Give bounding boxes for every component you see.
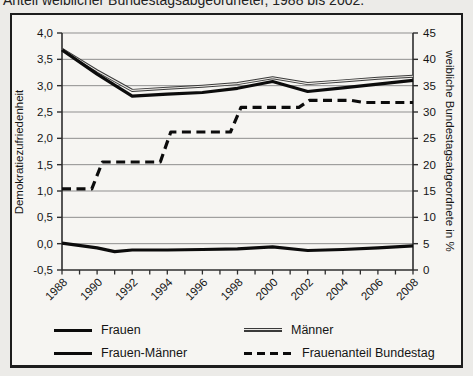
x-axis-tick-label: 1994 [148,276,175,303]
right-axis-tick-label: 30 [423,106,436,118]
right-axis-title: weibliche Bundestagsabgeordnete in % [444,49,456,251]
x-axis-tick-label: 2008 [394,276,421,303]
left-axis-tick-label: 1,0 [37,185,53,197]
left-axis-tick-label: 4,0 [37,27,53,39]
left-axis-tick-label: 3,5 [37,53,53,65]
legend-item-frauen: Frauen [54,323,244,337]
series-frauenanteil-line [62,100,413,188]
legend-item-frauenanteil: Frauenanteil Bundestag [244,346,447,360]
right-axis-tick-label: 5 [423,238,429,250]
right-axis-tick-label: 40 [423,53,436,65]
legend-label: Männer [291,323,333,337]
line-chart: 4,0453,5403,0352,5302,0251,5201,0150,510… [12,15,461,311]
right-axis-tick-label: 25 [423,132,436,144]
right-axis-tick-label: 20 [423,159,436,171]
series-frauen_maenner-line [62,243,413,252]
left-axis-tick-label: 0,0 [37,238,53,250]
right-axis-tick-label: 45 [423,27,436,39]
x-axis-tick-label: 2002 [289,276,316,303]
x-axis-tick-label: 1996 [183,276,210,303]
right-axis-tick-label: 35 [423,80,436,92]
right-axis-tick-label: 0 [423,264,429,276]
x-axis-tick-label: 1990 [78,276,105,303]
x-axis-tick-label: 2006 [359,276,386,303]
x-axis-tick-label: 1998 [218,276,245,303]
x-axis-tick-label: 1992 [113,276,140,303]
left-axis-tick-label: 1,5 [37,159,53,171]
series-frauen-line [62,50,413,96]
chart-title: Anteil weiblicher Bundestagsabgeordneter… [3,0,364,8]
right-axis-tick-label: 15 [423,185,436,197]
x-axis-tick-label: 2000 [253,276,280,303]
legend-label: Frauen-Männer [101,346,187,360]
x-axis-tick-label: 2004 [324,276,351,303]
left-axis-title: Demokratiezufriedenheit [13,89,25,214]
x-axis-tick-label: 1988 [43,276,70,303]
left-axis-tick-label: 3,0 [37,80,53,92]
legend-label: Frauenanteil Bundestag [302,346,435,360]
chart-figure-box: 4,0453,5403,0352,5302,0251,5201,0150,510… [10,13,463,368]
left-axis-tick-label: -0,5 [33,264,53,276]
legend-item-maenner: Männer [244,323,447,337]
legend-key-solid-line-icon [54,352,92,355]
legend-item-frauen-maenner: Frauen-Männer [54,346,244,360]
legend-key-solid-line-icon [54,329,92,332]
right-axis-tick-label: 10 [423,211,436,223]
left-axis-tick-label: 2,5 [37,106,53,118]
left-axis-tick-label: 0,5 [37,211,53,223]
legend-label: Frauen [101,323,141,337]
legend-key-gray-line-icon [244,328,282,332]
legend-key-dashed-line-icon [244,352,293,355]
left-axis-tick-label: 2,0 [37,132,53,144]
chart-legend: Frauen Männer Frauen-Männer Frauenanteil… [54,323,447,360]
scanned-chart-page: Anteil weiblicher Bundestagsabgeordneter… [0,0,473,376]
